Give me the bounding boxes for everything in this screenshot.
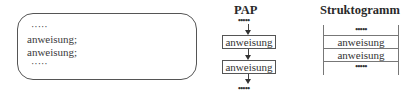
pap-ellipsis-bottom: •••••: [238, 86, 250, 92]
code-block: ····· anweisung; anweisung; ·····: [17, 13, 197, 80]
struktogramm-ellipsis-bottom: •••••: [324, 61, 398, 74]
code-statement-2: anweisung;: [27, 46, 77, 58]
code-statement-1: anweisung;: [27, 33, 77, 45]
code-ellipsis-bottom: ·····: [31, 58, 48, 70]
struktogramm-block: ••••• anweisung anweisung •••••: [323, 25, 399, 75]
pap-process-box-2: anweisung: [222, 60, 276, 74]
pap-process-box-1: anweisung: [222, 35, 276, 49]
struktogramm-statement-2: anweisung: [324, 48, 398, 61]
struktogramm-title: Struktogramm: [320, 3, 400, 18]
code-ellipsis-top: ·····: [31, 21, 48, 33]
struktogramm-ellipsis-top: •••••: [324, 25, 398, 35]
struktogramm-statement-1: anweisung: [324, 35, 398, 48]
